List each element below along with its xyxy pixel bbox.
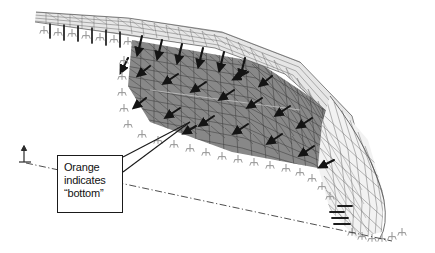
load-arrow — [122, 58, 128, 70]
callout-leader-line — [123, 122, 190, 157]
callout-line-3: “bottom” — [64, 187, 122, 200]
callout-leader-line — [123, 122, 190, 172]
callout-line-1: Orange — [64, 161, 122, 174]
callout-line-2: indicates — [64, 174, 122, 187]
figure-canvas: Orange indicates “bottom” — [0, 0, 435, 253]
shell-mesh-illustration — [0, 0, 435, 253]
vertical-axis-indicator — [19, 146, 31, 163]
callout-annotation-box: Orange indicates “bottom” — [57, 155, 123, 213]
callout-leader-group — [123, 122, 190, 172]
